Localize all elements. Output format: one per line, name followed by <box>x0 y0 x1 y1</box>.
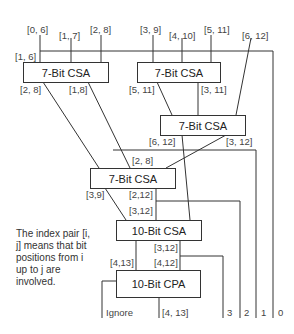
input-label-5-11: [5, 11] <box>204 25 230 35</box>
csa-block-1: 7-Bit CSA <box>23 62 109 83</box>
csa2-out-right-label: [3, 11] <box>201 85 227 95</box>
input-label-0-6: [0, 6] <box>27 25 48 35</box>
input-label-3-9: [3, 9] <box>140 25 161 35</box>
csa10-out-right1-label: [3,12] <box>154 243 178 253</box>
cpa-block-10bit: 10-Bit CPA <box>116 270 201 298</box>
bit-3-label: 3 <box>227 308 232 318</box>
csa-block-4: 7-Bit CSA <box>90 168 176 189</box>
csa1-out-right-label: [1,8] <box>69 85 88 95</box>
csa4-out-left-label: [3,9] <box>86 190 105 200</box>
csa4-in-label: [2, 8] <box>132 156 153 166</box>
input-label-4-10: [4, 10] <box>169 31 195 41</box>
input-label-2-8: [2, 8] <box>90 25 111 35</box>
input-label-6-12: [6, 12] <box>242 31 268 41</box>
index-pair-note: The index pair [i, j] means that bit pos… <box>16 228 96 288</box>
input-label-1-7: [1, 7] <box>59 31 80 41</box>
csa4-out-right2-label: [3,12] <box>129 206 153 216</box>
ignore-label: Ignore <box>106 308 133 318</box>
csa-block-2: 7-Bit CSA <box>137 62 221 83</box>
csa3-out-right-label: [3, 12] <box>226 137 252 147</box>
csa-block-3: 7-Bit CSA <box>160 115 246 136</box>
csa10-out-left-label: [4,13] <box>110 258 134 268</box>
input-label-1-6: [1, 6] <box>15 52 36 62</box>
bit-2-label: 2 <box>244 308 249 318</box>
csa-block-10bit: 10-Bit CSA <box>116 220 202 241</box>
bit-0-label: 0 <box>278 308 283 318</box>
bit-1-label: 1 <box>261 308 266 318</box>
csa1-out-left-label: [2, 8] <box>20 85 41 95</box>
csa2-out-left-label: [5, 11] <box>129 85 155 95</box>
csa4-out-right1-label: [2,12] <box>129 190 153 200</box>
csa10-out-right2-label: [4,12] <box>154 258 178 268</box>
cpa-out-label: [4, 13] <box>162 308 188 318</box>
csa3-out-left-label: [6, 12] <box>149 137 175 147</box>
